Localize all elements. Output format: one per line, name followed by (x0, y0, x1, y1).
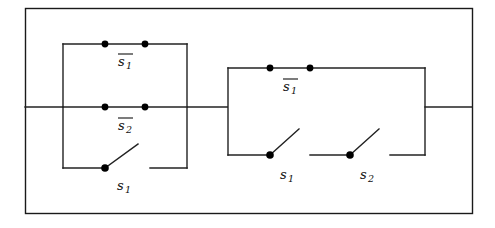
label-left-bottom-sub: 1 (125, 184, 131, 195)
label-right-top-base: s (283, 79, 290, 94)
node-right-s2-pivot (346, 151, 354, 159)
label-left-bottom-base: s (117, 178, 124, 193)
node-left-top-b (142, 41, 149, 48)
right-block-nodes (266, 65, 354, 159)
label-right-bottom-s2: s 2 (360, 167, 374, 184)
node-left-top-a (102, 41, 109, 48)
outer-border (26, 9, 473, 214)
label-right-top-sbar1: s 1 (283, 79, 298, 96)
left-bottom-switch-blade (105, 144, 138, 168)
label-left-bottom-s1: s 1 (117, 178, 131, 195)
figure-root: s 1 s 2 s 1 s 1 s 1 s 2 (0, 0, 495, 228)
node-left-middle-a (102, 104, 109, 111)
right-switch-s2-blade (350, 129, 379, 155)
label-right-bottom-s1: s 1 (280, 167, 294, 184)
label-left-top-sbar1: s 1 (118, 54, 133, 71)
label-left-middle-sbar2: s 2 (118, 118, 133, 135)
right-switch-s1-blade (270, 129, 299, 155)
label-right-bottom-s1-base: s (280, 167, 287, 182)
label-left-middle-base: s (118, 118, 125, 133)
node-left-middle-b (142, 104, 149, 111)
left-block-nodes (101, 41, 148, 172)
node-right-s1-pivot (266, 151, 274, 159)
label-left-top-sub: 1 (126, 60, 132, 71)
label-right-top-sub: 1 (291, 85, 297, 96)
label-left-top-base: s (118, 54, 125, 69)
right-parallel-block (228, 68, 472, 155)
node-right-top-a (267, 65, 274, 72)
circuit-diagram: s 1 s 2 s 1 s 1 s 1 s 2 (0, 0, 495, 228)
node-left-bottom-pivot (101, 164, 109, 172)
label-right-bottom-s2-sub: 2 (367, 173, 374, 184)
label-right-bottom-s1-sub: 1 (288, 173, 294, 184)
label-right-bottom-s2-base: s (360, 167, 367, 182)
label-left-middle-sub: 2 (125, 124, 132, 135)
node-right-top-b (307, 65, 314, 72)
